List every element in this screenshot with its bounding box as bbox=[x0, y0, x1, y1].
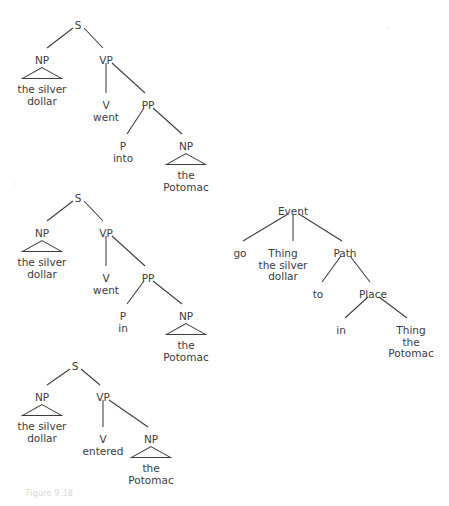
tree-node-vp: VP bbox=[96, 392, 110, 404]
tree-node-line: V bbox=[93, 100, 119, 112]
tree-node-v: Vwent bbox=[93, 273, 119, 296]
tree-node-np: NP bbox=[35, 55, 49, 67]
tree-node-pp: PP bbox=[142, 273, 155, 285]
tree-edge bbox=[127, 108, 144, 134]
tree-node-line: in bbox=[118, 323, 128, 335]
tree-node-line: the bbox=[163, 170, 208, 182]
np-triangle-icon bbox=[22, 67, 62, 79]
tree-node-event: Event bbox=[278, 206, 308, 218]
tree-node-v: Ventered bbox=[83, 434, 124, 457]
tree-node-np2: NP bbox=[144, 434, 158, 446]
tree-edge bbox=[112, 63, 145, 93]
tree-node-pp: PP bbox=[142, 100, 155, 112]
tree-node-line: NP bbox=[179, 141, 193, 153]
tree-node-line: Event bbox=[278, 206, 308, 218]
tree-node-s: S bbox=[72, 361, 79, 373]
tree-edge bbox=[322, 256, 341, 282]
tree-node-thing2: ThingthePotomac bbox=[388, 325, 433, 360]
tree-node-line: dollar bbox=[18, 433, 67, 445]
tree-edge bbox=[350, 256, 370, 282]
tree-node-line: the bbox=[128, 463, 173, 475]
tree-node-p: Pin bbox=[118, 311, 128, 334]
figure-page: SNPthe silverdollarVPVwentPPPintoNPthePo… bbox=[0, 0, 449, 506]
tree-node-line: go bbox=[233, 248, 246, 260]
tree-node-line: Potomac bbox=[388, 348, 433, 360]
tree-node-vp: VP bbox=[99, 228, 113, 240]
tree-node-line: the bbox=[163, 340, 208, 352]
tree-node-line: S bbox=[75, 20, 82, 32]
tree-node-line: V bbox=[93, 273, 119, 285]
tree-node-line: S bbox=[72, 361, 79, 373]
tree-edge bbox=[47, 28, 73, 48]
tree-node-line: Place bbox=[359, 289, 387, 301]
tree-node-line: the silver bbox=[18, 421, 67, 433]
tree-edge bbox=[47, 369, 70, 385]
tree-node-line: to bbox=[313, 289, 324, 301]
np-triangle-icon bbox=[22, 240, 62, 252]
np-triangle-icon bbox=[131, 446, 171, 458]
tree-node-line: NP bbox=[179, 311, 193, 323]
tree-node-line: Thing bbox=[388, 325, 433, 337]
tree-node-line: NP bbox=[35, 228, 49, 240]
tree-node-line: P bbox=[118, 311, 128, 323]
tree-node-np_lex: the silverdollar bbox=[18, 421, 67, 444]
tree-edge-layer bbox=[0, 0, 449, 506]
tree-node-line: went bbox=[93, 285, 119, 297]
tree-node-line: VP bbox=[99, 55, 113, 67]
tree-node-line: NP bbox=[35, 55, 49, 67]
tree-edge bbox=[47, 201, 73, 221]
tree-node-line: Potomac bbox=[163, 352, 208, 364]
tree-node-s: S bbox=[75, 20, 82, 32]
tree-node-line: S bbox=[75, 193, 82, 205]
np-triangle-icon bbox=[22, 404, 62, 416]
tree-node-line: the silver bbox=[18, 257, 67, 269]
tree-node-line: in bbox=[336, 325, 346, 337]
tree-node-in: in bbox=[336, 325, 346, 337]
tree-node-line: P bbox=[113, 141, 133, 153]
tree-node-go: go bbox=[233, 248, 246, 260]
tree-node-vp: VP bbox=[99, 55, 113, 67]
tree-edge bbox=[153, 108, 182, 134]
tree-node-np2: NP bbox=[179, 141, 193, 153]
tree-node-line: Thing bbox=[259, 248, 308, 260]
tree-node-line: entered bbox=[83, 446, 124, 458]
tree-node-line: NP bbox=[144, 434, 158, 446]
tree-node-place: Place bbox=[359, 289, 387, 301]
page-speck bbox=[14, 183, 16, 185]
tree-node-line: dollar bbox=[259, 271, 308, 283]
figure-caption: Figure 9.18 bbox=[26, 489, 73, 498]
tree-node-line: dollar bbox=[18, 269, 67, 281]
tree-node-np2: NP bbox=[179, 311, 193, 323]
tree-node-line: VP bbox=[99, 228, 113, 240]
tree-edge bbox=[112, 236, 145, 266]
tree-edge bbox=[299, 214, 342, 241]
tree-node-np_lex: the silverdollar bbox=[18, 84, 67, 107]
tree-node-line: PP bbox=[142, 100, 155, 112]
tree-node-line: Path bbox=[333, 248, 356, 260]
tree-node-thing1: Thingthe silverdollar bbox=[259, 248, 308, 283]
tree-edge bbox=[153, 281, 182, 304]
np-triangle-icon bbox=[166, 153, 206, 165]
tree-node-np: NP bbox=[35, 392, 49, 404]
tree-node-line: into bbox=[113, 153, 133, 165]
tree-edge bbox=[84, 201, 103, 221]
tree-node-line: NP bbox=[35, 392, 49, 404]
tree-edge bbox=[81, 369, 100, 385]
tree-node-p: Pinto bbox=[113, 141, 133, 164]
tree-node-line: PP bbox=[142, 273, 155, 285]
tree-edge bbox=[243, 214, 288, 241]
tree-node-path: Path bbox=[333, 248, 356, 260]
tree-edge bbox=[109, 400, 148, 427]
tree-node-line: Potomac bbox=[163, 182, 208, 194]
tree-node-np: NP bbox=[35, 228, 49, 240]
tree-node-to: to bbox=[313, 289, 324, 301]
tree-node-line: VP bbox=[96, 392, 110, 404]
np-triangle-icon bbox=[166, 323, 206, 335]
tree-edge bbox=[84, 28, 103, 48]
tree-node-line: the silver bbox=[18, 84, 67, 96]
tree-node-s: S bbox=[75, 193, 82, 205]
tree-node-line: went bbox=[93, 112, 119, 124]
tree-node-np2_lex: thePotomac bbox=[163, 340, 208, 363]
page-speck bbox=[387, 27, 389, 29]
tree-node-v: Vwent bbox=[93, 100, 119, 123]
